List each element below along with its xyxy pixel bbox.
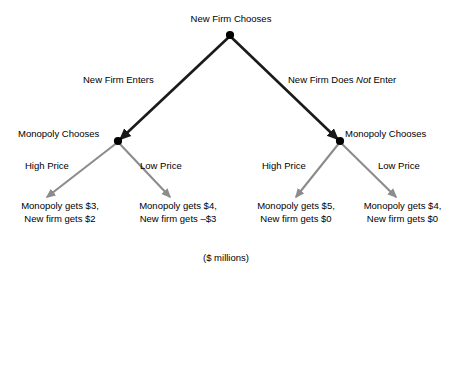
outcome-newfirm-payoff: New firm gets $0: [236, 213, 356, 226]
branch-label-left-high-price: High Price: [25, 160, 69, 172]
branch-label-left-low-price: Low Price: [140, 160, 182, 172]
units-caption: ($ millions): [176, 252, 276, 263]
root-node-label: New Firm Chooses: [181, 13, 281, 25]
branch-new-firm-enters: [121, 36, 231, 139]
outcome-not-enter-low-price: Monopoly gets $4, New firm gets $0: [352, 200, 453, 225]
outcome-newfirm-payoff: New firm gets $0: [352, 213, 453, 226]
outcome-monopoly-payoff: Monopoly gets $4,: [352, 200, 453, 213]
tree-branches-svg: [0, 0, 453, 366]
branch-label-right-high-price: High Price: [262, 160, 306, 172]
branch-label-new-firm-enters: New Firm Enters: [83, 74, 154, 86]
left-monopoly-node-label: Monopoly Chooses: [18, 128, 99, 140]
branch-label-suffix: Enter: [371, 74, 396, 85]
game-tree-diagram: New Firm Chooses New Firm Enters New Fir…: [0, 0, 453, 366]
outcome-not-enter-high-price: Monopoly gets $5, New firm gets $0: [236, 200, 356, 225]
outcome-newfirm-payoff: New firm gets $2: [0, 213, 120, 226]
branch-label-right-low-price: Low Price: [378, 160, 420, 172]
outcome-newfirm-payoff: New firm gets –$3: [118, 213, 238, 226]
branch-new-firm-does-not-enter: [230, 36, 338, 139]
outcome-enter-high-price: Monopoly gets $3, New firm gets $2: [0, 200, 120, 225]
right-monopoly-node-label: Monopoly Chooses: [345, 128, 426, 140]
branch-label-italic-not: Not: [356, 74, 371, 85]
left-monopoly-decision-node: [114, 137, 122, 145]
outcome-monopoly-payoff: Monopoly gets $3,: [0, 200, 120, 213]
outcome-enter-low-price: Monopoly gets $4, New firm gets –$3: [118, 200, 238, 225]
outcome-monopoly-payoff: Monopoly gets $5,: [236, 200, 356, 213]
branch-label-prefix: New Firm Does: [288, 74, 356, 85]
root-decision-node: [226, 31, 234, 39]
branch-label-new-firm-does-not-enter: New Firm Does Not Enter: [288, 74, 396, 86]
outcome-monopoly-payoff: Monopoly gets $4,: [118, 200, 238, 213]
right-monopoly-decision-node: [336, 137, 344, 145]
